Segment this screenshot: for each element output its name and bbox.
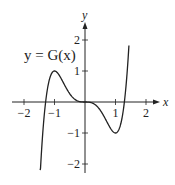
y-axis-arrow-icon — [83, 22, 88, 29]
x-tick-label: −2 — [18, 106, 31, 120]
y-axis-label: y — [81, 8, 88, 22]
chart: −2−112−2−112 x y y = G(x) — [0, 0, 175, 185]
axes — [12, 22, 160, 173]
function-label: y = G(x) — [24, 47, 76, 64]
y-tick-label: −1 — [67, 126, 80, 140]
x-tick-label: 2 — [143, 106, 149, 120]
y-tick-label: 1 — [74, 64, 80, 78]
x-tick-label: −1 — [48, 106, 61, 120]
x-axis-arrow-icon — [153, 100, 160, 105]
y-tick-label: −2 — [67, 157, 80, 171]
x-axis-label: x — [162, 95, 169, 109]
x-tick-label: 1 — [113, 106, 119, 120]
plot-area: −2−112−2−112 x y y = G(x) — [0, 0, 175, 185]
y-tick-label: 2 — [74, 33, 80, 47]
